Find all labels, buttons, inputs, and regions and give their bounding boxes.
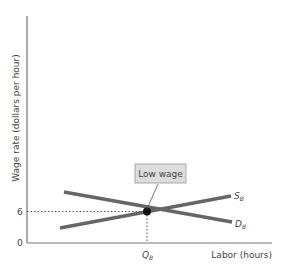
demand-label: DB [235, 219, 246, 230]
supply-label: SB [234, 191, 244, 202]
labor-market-chart: Wage rate (dollars per hour) 6 0 Low wag… [0, 0, 287, 272]
y-tick-6: 6 [17, 207, 23, 217]
y-axis-label: Wage rate (dollars per hour) [11, 54, 21, 182]
annotation-leader [147, 184, 158, 209]
x-axis-label: Labor (hours) [211, 250, 272, 260]
annotation-text: Low wage [138, 169, 183, 179]
x-tick-qb: QB [142, 250, 153, 261]
y-tick-0: 0 [17, 238, 23, 248]
